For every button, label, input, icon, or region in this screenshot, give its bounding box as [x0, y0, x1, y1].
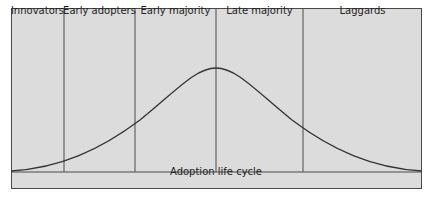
segment-label-laggards: Laggards	[339, 5, 385, 16]
segment-label-early-majority: Early majority	[141, 5, 211, 16]
segment-label-innovators: Innovators	[11, 5, 64, 16]
segment-label-late-majority: Late majority	[226, 5, 292, 16]
axis-label: Adoption life cycle	[170, 166, 262, 177]
segment-label-early-adopters: Early adopters	[63, 5, 136, 16]
